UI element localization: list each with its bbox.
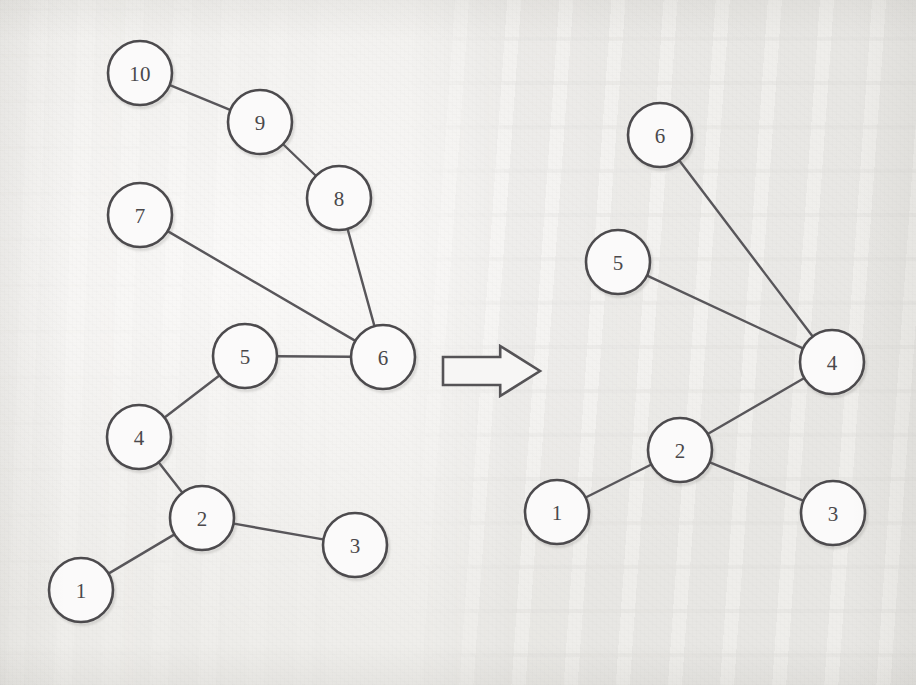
graph-edge <box>347 228 374 327</box>
node-label: 5 <box>613 251 624 275</box>
graph-node[interactable]: 3 <box>323 513 387 577</box>
graph-node[interactable]: 10 <box>108 41 172 105</box>
graph-node[interactable]: 7 <box>108 183 172 247</box>
graph-node[interactable]: 6 <box>351 325 415 389</box>
figure-root: 10987654231 654213 <box>0 0 916 685</box>
graph-node[interactable]: 1 <box>525 480 589 544</box>
graph-edge <box>709 462 805 501</box>
graph-drawing-canvas: 10987654231 654213 <box>0 0 916 685</box>
graph-edge <box>282 143 316 176</box>
node-label: 7 <box>135 204 146 228</box>
node-label: 8 <box>334 187 345 211</box>
graph-node[interactable]: 8 <box>307 166 371 230</box>
graph-node[interactable]: 3 <box>801 481 865 545</box>
graph-node[interactable]: 5 <box>213 324 277 388</box>
graph-edge <box>164 375 221 418</box>
transformation-arrow <box>443 346 540 396</box>
node-label: 5 <box>240 345 251 369</box>
graph-node[interactable]: 2 <box>648 418 712 482</box>
graph-edge <box>233 523 325 539</box>
graph-edge <box>585 464 653 498</box>
graph-node[interactable]: 2 <box>170 486 234 550</box>
node-label: 3 <box>828 502 839 526</box>
node-label: 3 <box>350 534 361 558</box>
node-label: 4 <box>827 351 838 375</box>
graph-edge <box>679 160 814 338</box>
graph-edge <box>167 231 356 342</box>
node-label: 9 <box>255 111 266 135</box>
graph-edge <box>707 378 805 435</box>
graph-node[interactable]: 4 <box>107 405 171 469</box>
node-label: 2 <box>197 507 208 531</box>
graph-node[interactable]: 1 <box>49 558 113 622</box>
node-label: 4 <box>134 426 145 450</box>
transformed-graph-nodes: 654213 <box>525 103 867 547</box>
graph-node[interactable]: 6 <box>628 103 692 167</box>
transformation-arrow-shape <box>443 346 540 396</box>
graph-edge <box>276 356 352 357</box>
original-graph-nodes: 10987654231 <box>49 41 417 624</box>
node-label: 6 <box>378 346 389 370</box>
graph-edge <box>108 534 176 574</box>
graph-edge <box>646 275 804 349</box>
graph-node[interactable]: 5 <box>586 230 650 294</box>
node-label: 2 <box>675 439 686 463</box>
graph-node[interactable]: 4 <box>800 330 864 394</box>
node-label: 1 <box>552 501 563 525</box>
node-label: 1 <box>76 579 87 603</box>
graph-node[interactable]: 9 <box>228 90 292 154</box>
node-label: 6 <box>655 124 666 148</box>
graph-edge <box>169 85 232 111</box>
graph-edge <box>158 461 183 493</box>
node-label: 10 <box>129 62 150 86</box>
